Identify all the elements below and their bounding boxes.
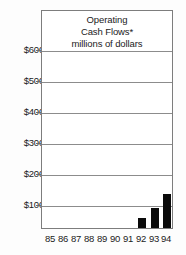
bar-92 <box>138 218 146 228</box>
chart-figure: $600 $500 $400 $300 $200 $100 Operating … <box>0 0 186 255</box>
bar-91 <box>125 228 133 229</box>
bar-93 <box>151 208 159 228</box>
plot-area: Operating Cash Flows* millions of dollar… <box>41 10 173 229</box>
bar-94 <box>163 194 171 228</box>
bar-series <box>42 11 172 228</box>
x-axis-tick-label: 94 <box>155 233 177 245</box>
x-axis: 85 86 87 88 89 90 91 92 93 94 <box>41 233 173 247</box>
